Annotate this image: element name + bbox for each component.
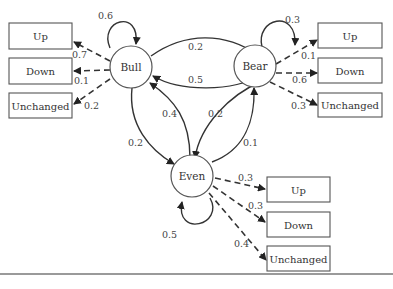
bear-obs-unchanged-box: Unchanged xyxy=(318,93,382,117)
bear-obs-up-label: Up xyxy=(343,31,358,42)
even-obs-unchanged-label: Unchanged xyxy=(269,254,328,265)
label-even-bear: 0.1 xyxy=(243,137,258,148)
even-obs-down-box: Down xyxy=(267,212,330,237)
label-emit-bear-unchanged: 0.3 xyxy=(291,100,306,111)
bear-obs-up-box: Up xyxy=(318,23,382,48)
even-obs-up-box: Up xyxy=(267,177,330,202)
even-obs-unchanged-box: Unchanged xyxy=(267,246,330,271)
bull-obs-down-box: Down xyxy=(9,58,72,84)
bear-obs-down-label: Down xyxy=(335,66,365,77)
state-even: Even xyxy=(171,155,213,197)
hmm-state-diagram: Up Down Unchanged Up Down Unchanged Up D… xyxy=(0,0,393,289)
label-even-bull: 0.4 xyxy=(162,108,177,119)
label-bull-bull: 0.6 xyxy=(98,10,113,21)
label-even-even: 0.5 xyxy=(162,229,177,240)
label-emit-bear-up: 0.1 xyxy=(301,50,316,61)
state-even-label: Even xyxy=(179,170,206,182)
label-bull-bear: 0.2 xyxy=(188,41,203,52)
bear-obs-unchanged-label: Unchanged xyxy=(321,100,380,111)
state-bear-label: Bear xyxy=(242,60,268,72)
label-emit-bull-down: 0.1 xyxy=(74,75,89,86)
label-emit-bull-up: 0.7 xyxy=(72,49,87,60)
label-bear-bear: 0.3 xyxy=(285,14,300,25)
edge-bull-bull xyxy=(108,22,136,48)
edge-even-even xyxy=(181,198,212,224)
emit-bull-down xyxy=(74,70,110,71)
bear-obs-down-box: Down xyxy=(318,58,382,83)
bull-obs-up-label: Up xyxy=(33,31,48,42)
label-emit-even-up: 0.3 xyxy=(238,172,253,183)
edge-even-bull xyxy=(150,83,190,158)
label-bear-even: 0.2 xyxy=(208,108,223,119)
bottom-rule xyxy=(0,273,393,275)
bull-obs-down-label: Down xyxy=(26,66,56,77)
even-obs-up-label: Up xyxy=(291,185,306,196)
state-bull-label: Bull xyxy=(120,61,142,73)
label-bull-even: 0.2 xyxy=(128,137,143,148)
label-emit-even-unchanged: 0.4 xyxy=(234,238,249,249)
state-bull: Bull xyxy=(110,46,152,88)
label-bear-bull: 0.5 xyxy=(188,74,203,85)
label-emit-bear-down: 0.6 xyxy=(292,74,307,85)
edge-bull-even xyxy=(132,88,174,164)
label-emit-even-down: 0.3 xyxy=(248,200,263,211)
bull-obs-up-box: Up xyxy=(9,23,72,49)
bull-obs-unchanged-box: Unchanged xyxy=(9,93,72,118)
bull-obs-unchanged-label: Unchanged xyxy=(11,101,70,112)
state-bear: Bear xyxy=(234,45,276,87)
label-emit-bull-unchanged: 0.2 xyxy=(84,100,99,111)
even-obs-down-label: Down xyxy=(284,220,314,231)
